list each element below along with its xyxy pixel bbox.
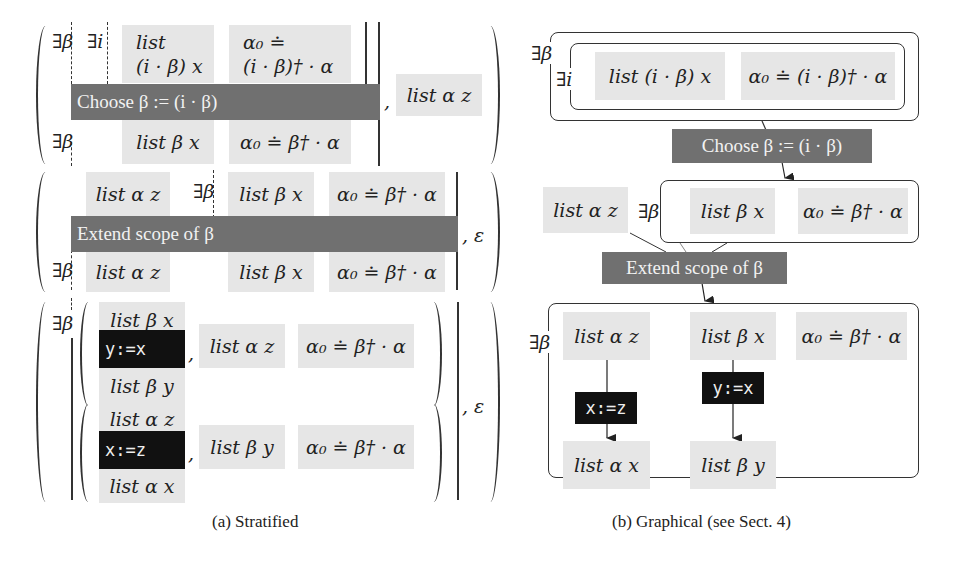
- list-beta-x-box: list β x: [690, 188, 775, 234]
- list-beta-x-box: list β x: [690, 312, 776, 360]
- list-alpha-z-box: list α z: [543, 187, 628, 233]
- caption-b: (b) Graphical (see Sect. 4): [612, 512, 791, 532]
- list-alpha-z-box: list α z: [563, 312, 650, 360]
- exists-beta-label: ∃β: [531, 42, 552, 64]
- alpha-constraint-box: α₀ ≐ β† · α: [798, 188, 908, 234]
- list-i-beta-x-box: list (i · β) x: [595, 52, 725, 100]
- alpha-constraint-box: α₀ ≐ β† · α: [796, 312, 907, 360]
- list-beta-y-box: list β y: [690, 441, 776, 489]
- choose-step-node: Choose β := (i · β): [672, 129, 872, 163]
- exists-i-label: ∃i: [556, 68, 572, 90]
- alpha-constraint-box: α₀ ≐ (i · β)† · α: [741, 52, 895, 100]
- exists-beta-label: ∃β: [638, 200, 659, 222]
- assign-x-z-command: x:=z: [575, 392, 637, 424]
- assign-y-x-command: y:=x: [702, 372, 764, 404]
- extend-scope-step-node: Extend scope of β: [602, 252, 787, 284]
- list-alpha-x-box: list α x: [563, 441, 650, 489]
- exists-beta-label: ∃β: [529, 331, 550, 353]
